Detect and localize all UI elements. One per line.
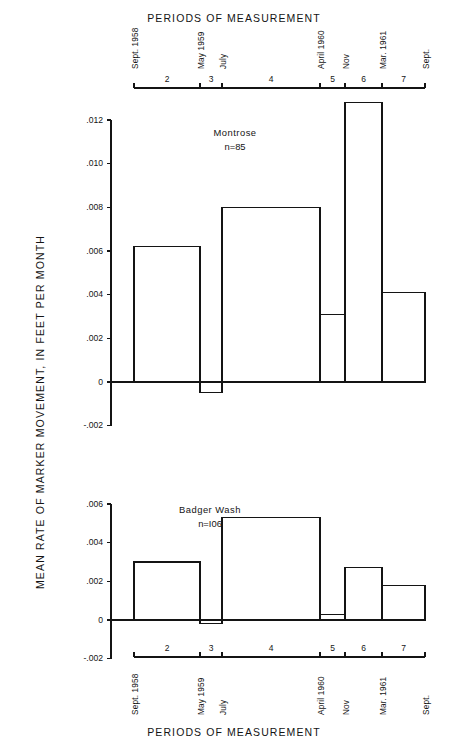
y-tick-label-1-0: -.002 (53, 653, 103, 663)
period-number-bottom-4: 4 (261, 643, 281, 653)
y-tick-label-0-5: .008 (53, 202, 103, 212)
date-label-bottom-2: July (219, 700, 228, 715)
date-label-bottom-5: Mar. 1961 (379, 677, 388, 715)
period-number-bottom-5: 5 (323, 643, 343, 653)
bottom-axis-title: PERIODS OF MEASUREMENT (0, 726, 468, 738)
date-label-bottom-6: Sept. (422, 695, 431, 715)
panel-title-0: Montrose (175, 127, 295, 138)
bar-badger-wash-period-6 (345, 568, 382, 620)
period-number-bottom-2: 2 (157, 643, 177, 653)
bar-montrose-period-5 (320, 314, 345, 382)
date-label-top-2: July (219, 54, 228, 69)
date-label-top-5: Mar. 1961 (379, 31, 388, 69)
bar-montrose-period-2 (134, 247, 200, 382)
y-tick-label-1-4: .006 (53, 499, 103, 509)
y-tick-label-0-7: .012 (53, 115, 103, 125)
period-number-top-2: 2 (157, 74, 177, 84)
period-number-bottom-3: 3 (201, 643, 221, 653)
bar-badger-wash-period-4 (222, 518, 320, 620)
y-tick-label-0-2: .002 (53, 333, 103, 343)
y-tick-label-0-3: .004 (53, 289, 103, 299)
bar-badger-wash-period-3 (200, 620, 222, 624)
bar-montrose-period-6 (345, 103, 382, 382)
period-number-top-5: 5 (323, 74, 343, 84)
period-number-top-3: 3 (201, 74, 221, 84)
bar-montrose-period-3 (200, 382, 222, 393)
bars-badger-wash (134, 518, 425, 624)
period-number-bottom-6: 6 (354, 643, 374, 653)
bar-badger-wash-period-2 (134, 562, 200, 620)
y-tick-label-1-2: .002 (53, 576, 103, 586)
y-tick-label-0-0: -.002 (53, 420, 103, 430)
date-label-bottom-4: Nov (342, 700, 351, 715)
period-number-bottom-7: 7 (394, 643, 414, 653)
date-label-top-1: May 1959 (197, 31, 206, 69)
period-number-top-6: 6 (354, 74, 374, 84)
panel-count-1: n=I06 (150, 518, 270, 529)
y-tick-label-1-1: 0 (53, 615, 103, 625)
y-tick-label-1-3: .004 (53, 537, 103, 547)
bar-montrose-period-7 (382, 292, 425, 382)
bar-montrose-period-4 (222, 207, 320, 382)
period-number-top-7: 7 (394, 74, 414, 84)
panel-count-0: n=85 (175, 141, 295, 152)
period-number-top-4: 4 (261, 74, 281, 84)
axes-group (107, 83, 425, 659)
date-label-top-4: Nov (342, 54, 351, 69)
plot-canvas (0, 0, 468, 747)
date-label-top-3: April 1960 (317, 30, 326, 69)
date-label-bottom-1: May 1959 (197, 677, 206, 715)
figure-root: PERIODS OF MEASUREMENT MEAN RATE OF MARK… (0, 0, 468, 747)
bar-badger-wash-period-7 (382, 585, 425, 620)
date-label-bottom-3: April 1960 (317, 676, 326, 715)
date-label-bottom-0: Sept. 1958 (131, 673, 140, 715)
y-tick-label-0-4: .006 (53, 246, 103, 256)
y-tick-label-0-6: .010 (53, 158, 103, 168)
panel-title-1: Badger Wash (150, 504, 270, 515)
date-label-top-0: Sept. 1958 (131, 27, 140, 69)
date-label-top-6: Sept. (422, 49, 431, 69)
y-tick-label-0-1: 0 (53, 377, 103, 387)
bar-badger-wash-period-5 (320, 614, 345, 620)
